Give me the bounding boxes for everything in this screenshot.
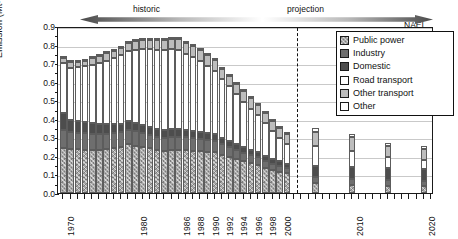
bar-segment-industry <box>312 177 319 184</box>
bar-segment-domestic <box>60 113 67 130</box>
bar-segment-road-transport <box>204 66 211 133</box>
bar-segment-domestic <box>82 122 89 133</box>
x-axis-tick <box>62 194 63 199</box>
bar-segment-public-power <box>168 150 175 193</box>
bar-segment-other-transport <box>168 39 175 49</box>
bar-1977 <box>111 26 118 193</box>
bar-segment-domestic <box>312 166 319 177</box>
bar-segment-public-power <box>248 163 255 193</box>
bar-segment-other-transport <box>154 40 161 50</box>
bar-segment-public-power <box>82 150 89 193</box>
x-axis-tick <box>344 194 345 199</box>
bar-segment-other <box>284 132 291 134</box>
bar-segment-industry <box>248 155 255 163</box>
legend-swatch-icon <box>340 102 349 111</box>
bar-segment-industry <box>125 130 132 145</box>
x-axis-tick <box>408 194 409 199</box>
bar-1998 <box>262 26 269 193</box>
bar-1986 <box>175 26 182 193</box>
x-axis-tick <box>416 194 417 199</box>
bar-segment-other <box>190 44 197 46</box>
bar-segment-public-power <box>262 168 269 193</box>
y-axis-tick-label: 0.1 <box>43 171 55 179</box>
bar-1983 <box>154 26 161 193</box>
bar-segment-domestic <box>226 141 233 147</box>
x-axis-tick <box>423 194 424 199</box>
bar-1970 <box>60 26 67 193</box>
bar-segment-road-transport <box>226 86 233 141</box>
bar-segment-domestic <box>233 144 240 150</box>
bar-segment-domestic <box>385 168 392 180</box>
bar-segment-other <box>262 111 269 113</box>
bar-segment-road-transport <box>111 58 118 124</box>
x-axis-tick <box>358 194 359 199</box>
bar-1972 <box>75 26 82 193</box>
x-axis-tick <box>113 194 114 199</box>
bar-segment-public-power <box>96 150 103 193</box>
bar-segment-industry <box>60 130 67 148</box>
bar-segment-other <box>82 59 89 61</box>
x-axis-tick-label: 1990 <box>211 216 221 236</box>
bar-segment-other-transport <box>204 55 211 66</box>
bar-segment-domestic <box>132 123 139 131</box>
projection-label: projection <box>287 4 324 14</box>
bar-segment-road-transport <box>197 61 204 132</box>
bar-segment-other <box>132 39 139 41</box>
x-axis-tick <box>149 194 150 199</box>
x-axis-tick <box>185 194 186 199</box>
bar-1996 <box>248 26 255 193</box>
bar-segment-other-transport <box>421 149 428 161</box>
bar-1971 <box>67 26 74 193</box>
bar-segment-domestic <box>67 120 74 132</box>
bar-1974 <box>89 26 96 193</box>
bar-segment-industry <box>75 133 82 150</box>
legend-swatch-icon <box>340 62 349 71</box>
bar-segment-public-power <box>118 147 125 193</box>
bar-segment-domestic <box>276 161 283 165</box>
bar-segment-industry <box>190 138 197 151</box>
bar-segment-public-power <box>197 151 204 193</box>
bar-segment-domestic <box>147 127 154 135</box>
bar-segment-road-transport <box>103 61 110 124</box>
bar-segment-public-power <box>421 186 428 193</box>
legend-label: Domestic <box>353 62 391 71</box>
x-axis-tick <box>235 194 236 199</box>
legend: Public powerIndustryDomesticRoad transpo… <box>336 31 454 116</box>
bar-segment-other-transport <box>197 50 204 61</box>
x-axis-tick <box>243 194 244 199</box>
bar-segment-other <box>75 60 82 62</box>
bar-segment-other <box>154 38 161 40</box>
bar-segment-other-transport <box>125 43 132 51</box>
bar-1978 <box>118 26 125 193</box>
bar-segment-other-transport <box>75 62 82 68</box>
bar-segment-public-power <box>75 149 82 193</box>
bar-segment-other-transport <box>276 128 283 138</box>
bar-segment-other <box>147 38 154 40</box>
legend-label: Public power <box>353 36 405 45</box>
x-axis-tick <box>336 194 337 199</box>
bar-1997 <box>255 26 262 193</box>
bar-segment-road-transport <box>276 138 283 161</box>
bar-segment-industry <box>111 133 118 148</box>
x-axis-tick <box>163 194 164 199</box>
bar-segment-public-power <box>89 150 96 193</box>
bar-segment-road-transport <box>190 57 197 130</box>
bar-segment-industry <box>183 137 190 150</box>
bar-segment-other-transport <box>248 98 255 108</box>
bar-segment-road-transport <box>183 54 190 130</box>
bar-segment-public-power <box>212 152 219 193</box>
bar-segment-road-transport <box>349 151 356 167</box>
bar-segment-industry <box>233 150 240 159</box>
bar-segment-road-transport <box>60 63 67 113</box>
x-axis-tick <box>264 194 265 199</box>
y-axis-tick-label: 0.2 <box>43 153 55 161</box>
bar-segment-other-transport <box>147 40 154 49</box>
bar-segment-domestic <box>111 124 118 133</box>
bar-segment-industry <box>421 181 428 186</box>
bar-segment-domestic <box>175 129 182 137</box>
bar-segment-other <box>219 67 226 69</box>
x-axis-tick-label: 2010 <box>355 216 365 236</box>
bar-segment-public-power <box>147 148 154 193</box>
bar-segment-industry <box>161 138 168 151</box>
bar-segment-industry <box>240 153 247 162</box>
